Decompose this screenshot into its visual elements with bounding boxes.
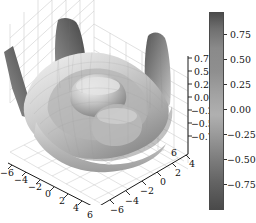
y-tick-label-2: −2 [136, 186, 158, 195]
colorbar-tick-label-2: 0.25 [230, 80, 251, 89]
colorbar-tick-label-3: 0.00 [230, 105, 251, 114]
colorbar-tick-mark-0 [224, 34, 227, 35]
y-tick-label-3: 0 [155, 177, 171, 186]
colorbar[interactable]: 0.75 0.50 0.25 0.00 −0.25 −0.50 −0.75 [204, 8, 256, 214]
y-tick-label-1: −4 [121, 196, 143, 205]
figure-canvas: −6 −4 −2 0 2 4 6 −6 −4 −2 0 2 4 6 0.75 0… [0, 0, 256, 223]
colorbar-gradient-svg [210, 13, 223, 209]
colorbar-tick-mark-3 [224, 109, 227, 110]
colorbar-gradient-bar[interactable] [209, 12, 224, 210]
colorbar-tick-label-5: −0.50 [227, 155, 256, 164]
axes-3d[interactable]: −6 −4 −2 0 2 4 6 −6 −4 −2 0 2 4 6 0.75 0… [0, 0, 200, 205]
y-tick-label-4: 2 [170, 168, 186, 177]
y-tick-label-5: 4 [184, 159, 200, 168]
y-tick-label-6: 6 [166, 148, 182, 157]
colorbar-tick-label-1: 0.50 [230, 55, 251, 64]
colorbar-tick-label-0: 0.75 [230, 30, 251, 39]
y-tick-label-0: −6 [106, 205, 128, 214]
colorbar-tick-label-6: −0.75 [227, 180, 256, 189]
colorbar-tick-mark-1 [224, 59, 227, 60]
colorbar-tick-label-4: −0.25 [227, 130, 256, 139]
colorbar-tick-mark-2 [224, 84, 227, 85]
x-tick-label-6: 6 [82, 210, 98, 219]
